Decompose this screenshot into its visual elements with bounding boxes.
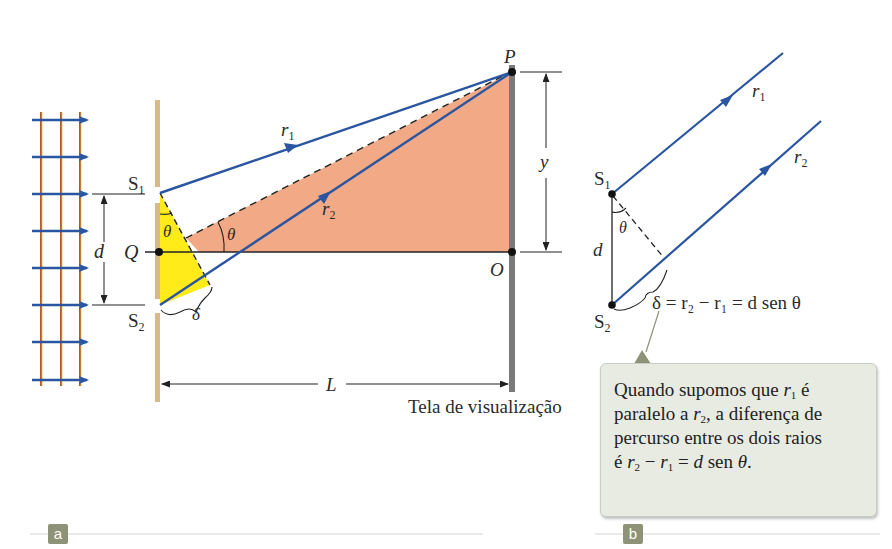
panel-tag-a: a [48,524,68,544]
panel-tag-b: b [623,524,643,544]
point-O [508,248,516,256]
label-S1-b: S1 [594,168,611,192]
ray-r2-b [612,121,821,305]
callout-line-1: Quando supomos que r1 é [614,378,866,402]
label-r2-b: r2 [794,146,807,170]
label-theta-center: θ [227,225,235,244]
label-P: P [503,46,516,67]
callout-line-4: é r2 − r1 = d sen θ. [614,450,866,474]
label-d-b: d [593,239,603,260]
incident-wavefronts [41,112,81,386]
label-viewing-screen: Tela de visualização [408,396,562,417]
ray-r1-b [612,53,783,194]
point-P [508,68,516,76]
point-Q [155,248,163,256]
panel-b: S1 S2 d θ r1 r2 δ = r₂ − r₁ = d sen θ [593,53,821,364]
label-O: O [490,259,504,280]
callout-box: Quando supomos que r1 é paralelo a r2, a… [600,363,877,517]
callout-line-2: paralelo a r2, a diferença de [614,402,866,426]
label-S2-b: S2 [594,311,611,335]
label-theta-b: θ [619,219,627,236]
label-r1-b: r1 [752,80,765,104]
label-delta: δ [192,305,201,324]
viewing-screen [509,65,515,392]
label-L: L [325,374,337,395]
callout-line-3: percurso entre os dois raios [614,426,866,450]
label-y: y [538,151,549,172]
label-S1: S1 [128,173,145,197]
label-d: d [94,240,105,262]
panel-a: S1 S2 Q d P O y L r1 r2 θ θ δ Tela de vi… [32,46,562,417]
point-S2-b [608,301,616,309]
label-S2: S2 [128,310,145,334]
path-difference-equation: δ = r₂ − r₁ = d sen θ [652,292,801,313]
label-r1: r1 [281,119,294,143]
label-theta-slit: θ [163,222,171,241]
label-Q: Q [124,241,139,263]
ray-r1-arrow [284,143,298,153]
